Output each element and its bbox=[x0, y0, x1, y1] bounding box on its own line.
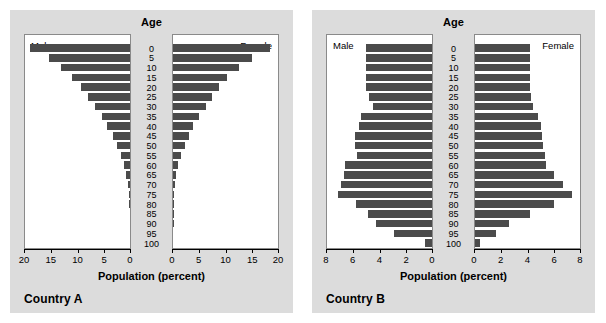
bar-row bbox=[475, 73, 580, 83]
bar-row bbox=[475, 131, 580, 141]
caption-country-b: Country B bbox=[326, 292, 385, 306]
axis-tick bbox=[51, 249, 52, 253]
bar bbox=[475, 210, 530, 217]
bar-row bbox=[173, 131, 278, 141]
bar bbox=[475, 161, 546, 168]
bar-row bbox=[475, 190, 580, 200]
bar-row bbox=[327, 112, 432, 122]
bar-row bbox=[173, 170, 278, 180]
bar-row bbox=[173, 102, 278, 112]
bar-row bbox=[173, 53, 278, 63]
female-plot-a: Female bbox=[172, 34, 279, 249]
bar-row bbox=[173, 73, 278, 83]
bar-row bbox=[25, 82, 130, 92]
axis-tick bbox=[528, 249, 529, 253]
bar bbox=[355, 132, 432, 139]
axis-tick-label: 20 bbox=[19, 254, 30, 265]
bar bbox=[72, 74, 130, 81]
age-header-b: Age bbox=[312, 16, 595, 28]
bar-row bbox=[173, 209, 278, 219]
axis-tick-label: 15 bbox=[45, 254, 56, 265]
bar-row bbox=[25, 63, 130, 73]
bar-row bbox=[327, 102, 432, 112]
bar-row bbox=[475, 238, 580, 248]
bar bbox=[61, 64, 130, 71]
axis-tick-label: 10 bbox=[72, 254, 83, 265]
axis-tick-label: 0 bbox=[169, 254, 174, 265]
bar-row bbox=[25, 199, 130, 209]
axis-tick bbox=[252, 249, 253, 253]
bar-row bbox=[475, 180, 580, 190]
bar bbox=[129, 191, 130, 198]
bar bbox=[173, 64, 239, 71]
bar bbox=[173, 54, 252, 61]
bar bbox=[345, 161, 432, 168]
bar bbox=[173, 152, 181, 159]
axis-title-b: Population (percent) bbox=[312, 270, 595, 282]
bar-row bbox=[25, 73, 130, 83]
bar bbox=[394, 230, 432, 237]
bar bbox=[173, 122, 193, 129]
bar-row bbox=[475, 112, 580, 122]
axis-tick-label: 8 bbox=[323, 254, 328, 265]
bar-row bbox=[25, 160, 130, 170]
bar-row bbox=[25, 180, 130, 190]
bar bbox=[173, 44, 270, 51]
bar-row bbox=[327, 170, 432, 180]
bar bbox=[475, 54, 530, 61]
age-tick-label: 100 bbox=[131, 239, 172, 249]
male-plot-a: Male bbox=[24, 34, 131, 249]
bar-row bbox=[25, 190, 130, 200]
bar bbox=[129, 200, 130, 207]
axis-tick bbox=[130, 249, 131, 253]
bar bbox=[366, 74, 432, 81]
bar bbox=[475, 200, 554, 207]
bar bbox=[373, 103, 432, 110]
bar bbox=[126, 171, 130, 178]
bar bbox=[173, 93, 212, 100]
axis-tick-label: 6 bbox=[552, 254, 557, 265]
bar bbox=[107, 122, 130, 129]
bar-row bbox=[173, 190, 278, 200]
female-bars-b bbox=[475, 35, 580, 248]
x-axis-right-a: 05101520 bbox=[172, 249, 279, 271]
bar-row bbox=[327, 238, 432, 248]
bar-row bbox=[173, 219, 278, 229]
male-plot-b: Male bbox=[326, 34, 433, 249]
bar bbox=[173, 161, 178, 168]
bar-row bbox=[327, 209, 432, 219]
bar-row bbox=[173, 63, 278, 73]
bar bbox=[475, 171, 554, 178]
bar bbox=[173, 103, 206, 110]
bar bbox=[357, 152, 432, 159]
bar-row bbox=[327, 121, 432, 131]
age-tick-label: 55 bbox=[433, 152, 474, 162]
bar-row bbox=[173, 43, 278, 53]
axis-tick bbox=[172, 249, 173, 253]
bar-row bbox=[173, 151, 278, 161]
age-axis-b: 0510152025303540455055606570758085909510… bbox=[433, 34, 474, 249]
axis-tick bbox=[554, 249, 555, 253]
bar-row bbox=[25, 53, 130, 63]
bar bbox=[359, 122, 433, 129]
bar-row bbox=[327, 82, 432, 92]
bar bbox=[475, 113, 538, 120]
bar-row bbox=[25, 141, 130, 151]
axis-tick-label: 0 bbox=[471, 254, 476, 265]
bar-row bbox=[327, 141, 432, 151]
axis-tick-label: 2 bbox=[498, 254, 503, 265]
axis-tick-label: 5 bbox=[102, 254, 107, 265]
bar bbox=[88, 93, 130, 100]
bar-row bbox=[475, 82, 580, 92]
bar bbox=[475, 103, 533, 110]
bar-row bbox=[173, 160, 278, 170]
bar bbox=[475, 230, 496, 237]
bar bbox=[425, 239, 432, 246]
axis-tick bbox=[353, 249, 354, 253]
bar bbox=[366, 44, 432, 51]
bar bbox=[369, 93, 432, 100]
bar-row bbox=[327, 73, 432, 83]
axis-tick bbox=[24, 249, 25, 253]
axis-tick bbox=[78, 249, 79, 253]
bar-row bbox=[327, 131, 432, 141]
